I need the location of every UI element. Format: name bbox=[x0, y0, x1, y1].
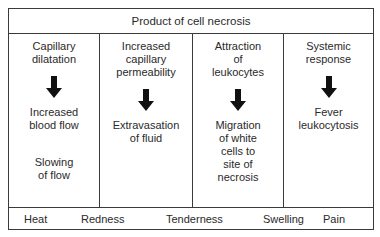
sign-tenderness: Tenderness bbox=[166, 213, 223, 225]
result-line: Extravasation bbox=[113, 119, 180, 132]
diagram-frame: Product of cell necrosis Capillary dilat… bbox=[8, 8, 374, 230]
footer-cardinal-signs: Heat Redness Tenderness Swelling Pain bbox=[9, 207, 373, 230]
column-title-line: Increased bbox=[116, 40, 175, 53]
result-line: Migration bbox=[215, 119, 260, 132]
result-line: necrosis bbox=[215, 171, 260, 184]
result-line: site of bbox=[215, 158, 260, 171]
column-title-line: dilatation bbox=[32, 53, 76, 66]
result-line: of fluid bbox=[113, 132, 180, 145]
sign-heat: Heat bbox=[24, 213, 47, 225]
result-line: Slowing bbox=[35, 156, 74, 169]
column-capillary-dilatation: Capillary dilatation Increased blood flo… bbox=[9, 34, 100, 207]
header-product-of-cell-necrosis: Product of cell necrosis bbox=[9, 9, 373, 34]
column-systemic-response: Systemic response Fever leukocytosis bbox=[284, 34, 373, 207]
column-title-line: Capillary bbox=[32, 40, 76, 53]
down-arrow-icon bbox=[46, 76, 62, 98]
down-arrow-icon bbox=[230, 89, 246, 111]
column-attraction-of-leukocytes: Attraction of leukocytes Migration of wh… bbox=[193, 34, 284, 207]
column-title-line: of bbox=[212, 53, 264, 66]
result-line: Increased bbox=[29, 106, 79, 119]
sign-redness: Redness bbox=[81, 213, 124, 225]
result-line: cells to bbox=[215, 145, 260, 158]
column-title-line: leukocytes bbox=[212, 66, 264, 79]
result-line: of white bbox=[215, 132, 260, 145]
column-title-line: permeability bbox=[116, 66, 175, 79]
result-line: blood flow bbox=[29, 119, 79, 132]
column-increased-capillary-permeability: Increased capillary permeability Extrava… bbox=[100, 34, 193, 207]
sign-pain: Pain bbox=[323, 213, 345, 225]
down-arrow-icon bbox=[321, 76, 337, 98]
result-line: leukocytosis bbox=[299, 119, 359, 132]
column-title-line: response bbox=[306, 53, 351, 66]
column-title-line: Systemic bbox=[306, 40, 351, 53]
column-title-line: capillary bbox=[116, 53, 175, 66]
result-line: Fever bbox=[299, 106, 359, 119]
down-arrow-icon bbox=[138, 89, 154, 111]
sign-swelling: Swelling bbox=[263, 213, 304, 225]
result-line: of flow bbox=[35, 169, 74, 182]
column-title-line: Attraction bbox=[212, 40, 264, 53]
